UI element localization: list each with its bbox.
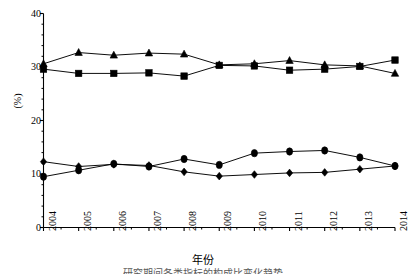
x-tick-2007: 2007 bbox=[153, 211, 163, 231]
x-tick-2010: 2010 bbox=[258, 211, 268, 231]
x-tick-2011: 2011 bbox=[294, 211, 304, 231]
x-tick-2006: 2006 bbox=[118, 211, 128, 231]
clipped-caption-text: 研究期间各类指标的构成比变化趋势 bbox=[0, 268, 406, 274]
x-tick-2005: 2005 bbox=[83, 211, 93, 231]
x-tick-2008: 2008 bbox=[188, 211, 198, 231]
x-tick-2004: 2004 bbox=[48, 211, 58, 231]
x-tick-2013: 2013 bbox=[364, 211, 374, 231]
clipped-caption: 研究期间各类指标的构成比变化趋势 bbox=[0, 268, 406, 274]
x-tick-2012: 2012 bbox=[329, 211, 339, 231]
x-axis-title: 年份 bbox=[0, 255, 406, 267]
x-tick-2014: 2014 bbox=[399, 211, 409, 231]
x-tick-2009: 2009 bbox=[223, 211, 233, 231]
